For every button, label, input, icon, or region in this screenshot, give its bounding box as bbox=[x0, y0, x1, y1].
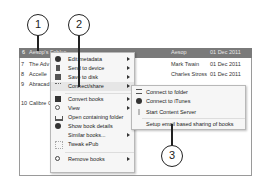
row-number: 8 bbox=[21, 71, 24, 77]
device-icon bbox=[56, 65, 60, 71]
submenu-item-start-content-server[interactable]: Start Content Server bbox=[132, 108, 245, 117]
menu-item-label: Convert books bbox=[68, 96, 103, 102]
chevron-right-icon bbox=[127, 106, 130, 110]
remove-icon bbox=[55, 156, 60, 161]
book-title: The Adv bbox=[29, 61, 49, 67]
menu-item-label: Setup email based sharing of books bbox=[146, 121, 233, 127]
submenu-item-setup-email-sharing[interactable]: Setup email based sharing of books bbox=[132, 120, 245, 129]
book-date: 01 Dec 2011 bbox=[210, 49, 241, 55]
menu-item-connect-share[interactable]: Connect/share bbox=[51, 82, 134, 91]
chevron-right-icon bbox=[127, 97, 130, 101]
book-date: 01 Dec 2011 bbox=[210, 71, 241, 77]
convert-icon bbox=[55, 96, 61, 102]
server-icon bbox=[138, 109, 140, 115]
menu-item-label: Show book details bbox=[68, 123, 113, 129]
chevron-right-icon bbox=[127, 157, 130, 161]
folder-icon bbox=[55, 116, 63, 121]
chevron-right-icon bbox=[127, 57, 130, 61]
book-title: Accelle bbox=[29, 71, 47, 77]
book-author: Aesop bbox=[171, 49, 187, 55]
menu-item-label: Remove books bbox=[68, 156, 105, 162]
book-author: Charles Stross bbox=[171, 71, 207, 77]
menu-item-label: Connect to iTunes bbox=[146, 98, 190, 104]
save-icon bbox=[55, 74, 61, 80]
menu-item-label: View bbox=[68, 105, 80, 111]
magnifier-icon bbox=[55, 105, 60, 110]
book-author: Mark Twain bbox=[171, 61, 199, 67]
menu-item-show-book-details[interactable]: Show book details bbox=[51, 122, 134, 131]
callout-2-leader bbox=[78, 35, 80, 87]
row-number: 9 bbox=[21, 81, 24, 87]
menu-item-label: Connect to folder bbox=[146, 89, 188, 95]
row-number: 6 bbox=[22, 49, 25, 55]
chevron-right-icon bbox=[127, 66, 130, 70]
details-icon bbox=[55, 123, 61, 129]
menu-item-label: Open containing folder bbox=[68, 114, 123, 120]
callout-1-leader bbox=[37, 35, 39, 51]
chevron-right-icon bbox=[127, 84, 130, 88]
callout-2: 2 bbox=[68, 14, 90, 36]
callout-3-leader bbox=[171, 124, 173, 146]
menu-item-view[interactable]: View bbox=[51, 104, 134, 113]
share-icon bbox=[55, 83, 61, 90]
menu-item-label: Tweak ePub bbox=[68, 141, 98, 147]
menu-item-send-to-device[interactable]: Send to device bbox=[51, 64, 134, 73]
book-title: Abracad bbox=[29, 81, 50, 87]
chevron-right-icon bbox=[127, 75, 130, 79]
menu-item-label: Similar books... bbox=[68, 132, 106, 138]
book-title: Calibre C bbox=[29, 100, 52, 106]
itunes-icon bbox=[136, 98, 142, 104]
submenu-item-connect-to-folder[interactable]: Connect to folder bbox=[132, 88, 245, 97]
info-icon bbox=[55, 56, 61, 62]
callout-3: 3 bbox=[161, 145, 183, 167]
menu-item-label: Send to device bbox=[68, 65, 104, 71]
book-date: 01 Dec 2011 bbox=[210, 61, 241, 67]
tweak-icon bbox=[55, 141, 63, 149]
context-menu: Edit metadata Send to device Save to dis… bbox=[50, 52, 135, 173]
menu-item-similar-books[interactable]: Similar books... bbox=[51, 131, 134, 140]
menu-item-open-containing-folder[interactable]: Open containing folder bbox=[51, 113, 134, 122]
menu-item-label: Save to disk bbox=[68, 74, 98, 80]
connect-share-submenu: Connect to folder Connect to iTunes Star… bbox=[131, 85, 246, 130]
folder-connect-icon bbox=[136, 89, 142, 94]
submenu-item-connect-to-itunes[interactable]: Connect to iTunes bbox=[132, 97, 245, 106]
menu-separator bbox=[142, 118, 245, 119]
menu-item-edit-metadata[interactable]: Edit metadata bbox=[51, 55, 134, 64]
menu-separator bbox=[65, 152, 134, 153]
menu-item-tweak-epub[interactable]: Tweak ePub bbox=[51, 140, 134, 149]
menu-item-label: Edit metadata bbox=[68, 56, 102, 62]
row-number: 7 bbox=[21, 61, 24, 67]
menu-item-convert-books[interactable]: Convert books bbox=[51, 95, 134, 104]
chevron-right-icon bbox=[127, 133, 130, 137]
menu-item-label: Connect/share bbox=[68, 83, 104, 89]
row-number: 10 bbox=[21, 100, 27, 106]
menu-item-remove-books[interactable]: Remove books bbox=[51, 155, 134, 164]
menu-item-label: Start Content Server bbox=[146, 109, 196, 115]
menu-item-save-to-disk[interactable]: Save to disk bbox=[51, 73, 134, 82]
menu-separator bbox=[65, 93, 134, 94]
callout-1: 1 bbox=[27, 14, 49, 36]
